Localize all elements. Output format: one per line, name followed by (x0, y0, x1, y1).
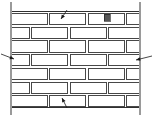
brick-face (127, 41, 141, 52)
brick-face (88, 68, 124, 79)
brick-face (70, 27, 106, 38)
brick-face (127, 68, 141, 79)
brick-face (11, 82, 29, 93)
brick-face (11, 55, 29, 66)
brick-face (11, 27, 29, 38)
brick-face (88, 41, 124, 52)
brick-face (50, 14, 86, 25)
brick-face (50, 96, 86, 107)
brick-face (127, 14, 141, 25)
brick-face (50, 68, 86, 79)
accent-block-group (104, 14, 110, 21)
brick-face (32, 55, 68, 66)
brick-face (32, 82, 68, 93)
brick-face (70, 55, 106, 66)
brick-face (11, 96, 47, 107)
brick-face (11, 68, 47, 79)
brick-face (32, 27, 68, 38)
brick-face (50, 41, 86, 52)
figure-canvas (0, 0, 153, 117)
brick-face (11, 41, 47, 52)
brick-face (127, 96, 141, 107)
brick-face (109, 82, 141, 93)
brick-face (88, 96, 124, 107)
brick-face (109, 27, 141, 38)
brick-face (70, 82, 106, 93)
accent-block (104, 14, 110, 21)
brick-face (109, 55, 141, 66)
brick-face (11, 14, 47, 25)
brick-wall-figure (0, 0, 153, 117)
